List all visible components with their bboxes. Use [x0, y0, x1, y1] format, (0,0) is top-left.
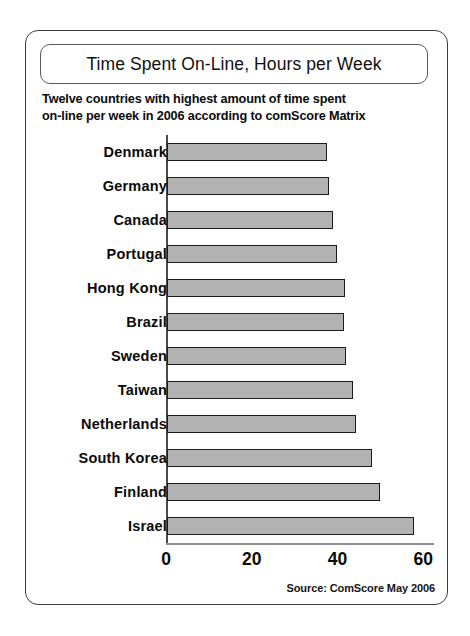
bar-row: Taiwan — [26, 373, 449, 407]
bar-row: Finland — [26, 475, 449, 509]
bar-row: Sweden — [26, 339, 449, 373]
chart-title-box: Time Spent On-Line, Hours per Week — [40, 44, 428, 84]
bar — [167, 279, 345, 297]
category-label: Canada — [113, 212, 167, 228]
category-label: Taiwan — [118, 382, 167, 398]
category-label: Brazil — [126, 314, 167, 330]
bar — [167, 415, 356, 433]
x-tick-label: 20 — [242, 549, 261, 570]
x-axis-ticks: 0204060 — [26, 549, 449, 575]
bar — [167, 449, 372, 467]
bar-row: Netherlands — [26, 407, 449, 441]
category-label: South Korea — [79, 450, 167, 466]
category-label: Denmark — [104, 144, 167, 160]
chart-subtitle: Twelve countries with highest amount of … — [42, 91, 437, 124]
bar — [167, 211, 333, 229]
category-label: Portugal — [107, 246, 167, 262]
bar-row: Israel — [26, 509, 449, 543]
bar — [167, 245, 337, 263]
chart-frame: Time Spent On-Line, Hours per Week Twelv… — [25, 30, 448, 605]
x-axis-line — [166, 543, 434, 545]
category-label: Germany — [103, 178, 167, 194]
bar — [167, 347, 346, 365]
bar — [167, 381, 353, 399]
bar — [167, 177, 329, 195]
bar — [167, 517, 414, 535]
bar-row: Portugal — [26, 237, 449, 271]
x-tick-label: 0 — [161, 549, 171, 570]
bar-row: Brazil — [26, 305, 449, 339]
bar — [167, 313, 344, 331]
bar-row: Hong Kong — [26, 271, 449, 305]
bar — [167, 483, 380, 501]
bar-row: South Korea — [26, 441, 449, 475]
x-tick-label: 60 — [414, 549, 433, 570]
source-note: Source: ComScore May 2006 — [286, 582, 435, 594]
bar-row: Germany — [26, 169, 449, 203]
bar-row: Canada — [26, 203, 449, 237]
bar-row: Denmark — [26, 135, 449, 169]
chart-title: Time Spent On-Line, Hours per Week — [86, 54, 381, 75]
category-label: Hong Kong — [87, 280, 167, 296]
category-label: Netherlands — [81, 416, 167, 432]
chart-subtitle-line-2: on-line per week in 2006 according to co… — [42, 108, 437, 125]
chart-subtitle-line-1: Twelve countries with highest amount of … — [42, 91, 437, 108]
category-label: Israel — [128, 518, 167, 534]
category-label: Sweden — [111, 348, 167, 364]
x-tick-label: 40 — [328, 549, 347, 570]
plot-area: DenmarkGermanyCanadaPortugalHong KongBra… — [26, 131, 449, 571]
category-label: Finland — [114, 484, 167, 500]
bar — [167, 143, 327, 161]
